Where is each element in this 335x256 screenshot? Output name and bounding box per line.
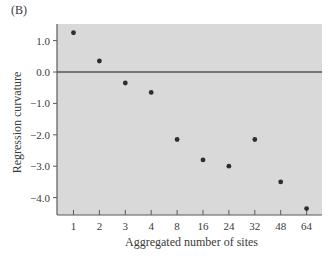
data-point [227, 164, 232, 169]
y-tick-label: −1.0 [30, 97, 50, 109]
x-tick-label: 48 [275, 220, 287, 232]
data-point [252, 137, 257, 142]
y-tick-label: −2.0 [30, 129, 50, 141]
x-tick-label: 4 [148, 220, 154, 232]
data-point [175, 137, 180, 142]
plot-area [57, 24, 322, 215]
data-point [97, 59, 102, 64]
y-tick-label: −3.0 [30, 160, 50, 172]
x-tick-label: 1 [71, 220, 77, 232]
x-tick-label: 16 [198, 220, 210, 232]
data-point [123, 81, 128, 86]
x-tick-label: 8 [174, 220, 180, 232]
x-tick-label: 3 [123, 220, 129, 232]
data-point [201, 158, 206, 163]
y-axis-title: Regression curvature [10, 72, 24, 174]
y-tick-label: 0.0 [36, 66, 50, 78]
x-axis-title: Aggregated number of sites [125, 235, 258, 249]
y-tick-label: −4.0 [30, 192, 50, 204]
x-tick-label: 64 [301, 220, 313, 232]
scatter-chart: 1.00.0−1.0−2.0−3.0−4.0 123481624324864 A… [0, 0, 335, 256]
x-tick-label: 32 [249, 220, 260, 232]
data-point [149, 90, 154, 95]
y-tick-label: 1.0 [36, 35, 50, 47]
data-point [304, 206, 309, 211]
data-point [278, 180, 283, 185]
x-tick-label: 2 [97, 220, 103, 232]
x-tick-label: 24 [223, 220, 235, 232]
y-axis: 1.00.0−1.0−2.0−3.0−4.0 [30, 24, 57, 215]
data-point [71, 30, 76, 35]
